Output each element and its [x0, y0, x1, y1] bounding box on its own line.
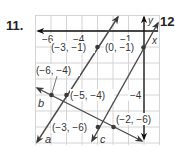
y-tick-label: −4	[130, 90, 142, 101]
point-label: (−5, −4)	[70, 90, 105, 101]
line-a-label: a	[45, 133, 51, 145]
line-c-label: c	[100, 133, 106, 145]
point-label: (−3, −1)	[51, 42, 86, 53]
point-neg6-neg4	[49, 93, 54, 98]
point-label: (−6, −4)	[36, 65, 71, 76]
point-neg3-neg6	[96, 125, 101, 130]
y-tick-labels: −4	[128, 90, 143, 101]
point-label: (−2, −6)	[116, 114, 151, 125]
point-neg2-neg6	[111, 125, 116, 130]
point-label: (−3, −6)	[52, 122, 87, 133]
coordinate-graph: −6 −4 −1 −4 y x (−3, −1) (0, −1)	[0, 0, 175, 147]
point-0-neg1	[141, 45, 146, 50]
point-neg5-neg4	[64, 93, 69, 98]
y-axis-label: y	[147, 15, 154, 26]
point-neg3-neg1	[95, 45, 100, 50]
line-b-label: b	[38, 97, 44, 109]
x-axis-label: x	[151, 35, 158, 46]
point-label: (0, −1)	[105, 42, 134, 53]
